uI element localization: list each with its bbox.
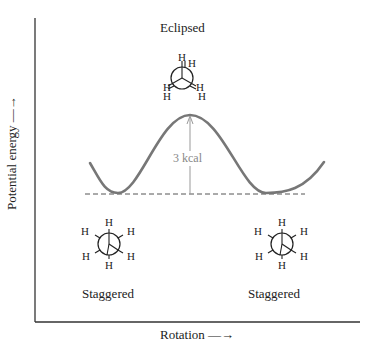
y-axis-arrow-icon: —→ [4, 96, 19, 122]
staggered-label-right: Staggered [248, 286, 300, 302]
staggered-newman-projection-right [268, 229, 296, 259]
h-atom: H [105, 216, 113, 228]
x-axis-arrow-icon: —→ [208, 327, 234, 342]
h-atom: H [127, 225, 135, 237]
energy-curve [90, 115, 324, 193]
h-atom: H [127, 250, 135, 262]
h-atom: H [163, 90, 171, 102]
staggered-newman-projection-left [95, 229, 123, 259]
h-atom: H [278, 216, 286, 228]
h-atom: H [105, 259, 113, 271]
energy-diagram [0, 0, 377, 351]
h-atom: H [278, 259, 286, 271]
h-atom: H [178, 51, 186, 63]
y-axis-label: Potential energy —→ [4, 96, 20, 210]
h-atom: H [81, 225, 89, 237]
h-atom: H [300, 250, 308, 262]
x-axis-label: Rotation —→ [160, 327, 234, 343]
staggered-label-left: Staggered [82, 286, 134, 302]
eclipsed-label: Eclipsed [160, 20, 205, 36]
h-atom: H [82, 250, 90, 262]
energy-barrier-label: 3 kcal [172, 151, 203, 166]
h-atom: H [188, 57, 196, 69]
h-atom: H [300, 225, 308, 237]
h-atom: H [198, 90, 206, 102]
h-atom: H [255, 250, 263, 262]
h-atom: H [254, 225, 262, 237]
